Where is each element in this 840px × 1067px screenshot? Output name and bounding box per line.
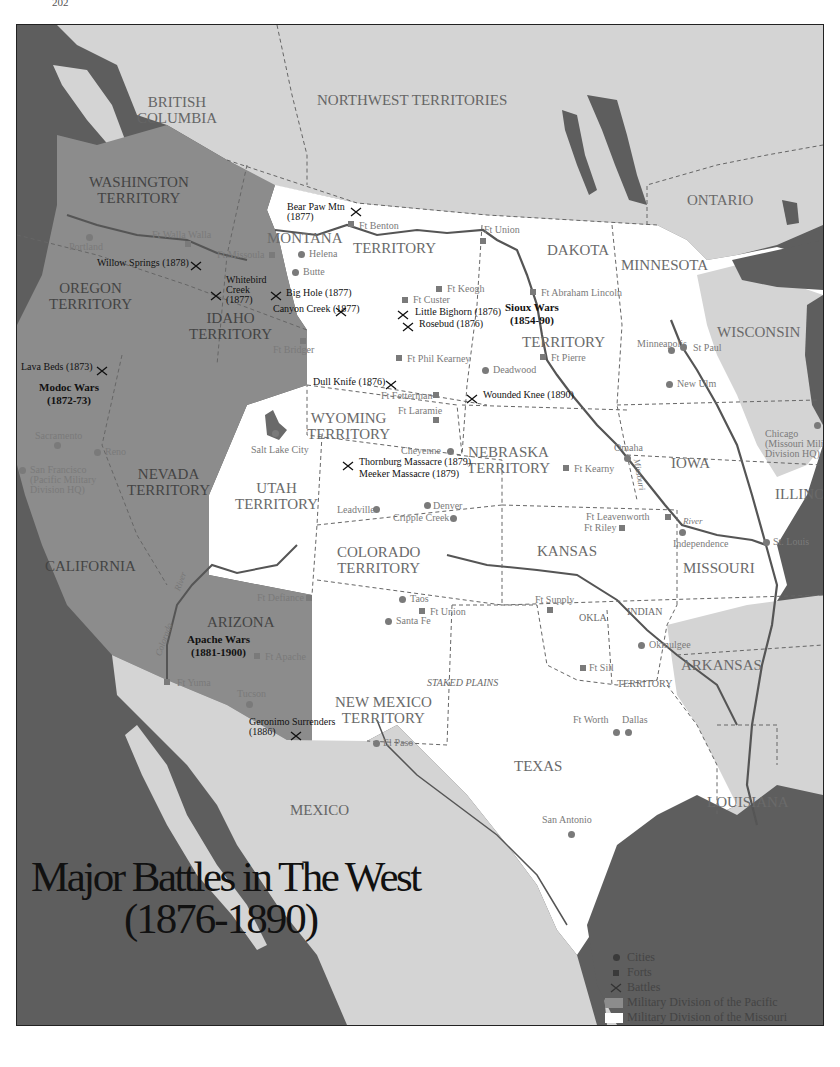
city-label: Omaha [614, 443, 643, 453]
fort-label: Ft Kearny [574, 464, 614, 474]
fort-label: Ft Union [484, 225, 520, 235]
region-label-oregon: OREGONTERRITORY [49, 281, 132, 313]
city-label: Taos [410, 594, 429, 604]
city-dot-icon [19, 467, 26, 474]
battle-label: Geronimo Surrenders(1886) [249, 717, 335, 737]
city-dot-icon [86, 234, 93, 241]
battle-label: Bear Paw Mtn(1877) [287, 202, 345, 222]
city-dot-icon [482, 367, 489, 374]
page-number: 202 [52, 0, 69, 8]
city-dot-icon [298, 251, 305, 258]
city-label: St Paul [693, 343, 722, 353]
city-dot-icon [385, 618, 392, 625]
region-label-new-mexico: NEW MEXICOTERRITORY [335, 695, 432, 727]
map-frame: BRITISHCOLUMBIANORTHWEST TERRITORIESONTA… [16, 24, 824, 1026]
battle-label: Wounded Knee (1890) [483, 390, 574, 400]
city-dot-icon [272, 430, 279, 437]
city-label: Tucson [237, 689, 266, 699]
battle-label: Canyon Creek (1877) [273, 304, 360, 314]
crossed-swords-icon [385, 376, 397, 394]
battle-label: Rosebud (1876) [419, 319, 483, 329]
city-label: Chicago(Missouri MilitaryDivision HQ) [765, 429, 824, 459]
city-label: Sacramento [35, 431, 82, 441]
battle-label: WhitebirdCreek(1877) [226, 275, 267, 305]
region-label-mexico: MEXICO [290, 803, 349, 819]
region-label-wyoming: WYOMINGTERRITORY [307, 411, 390, 443]
fort-label: Ft Defiance [257, 593, 304, 603]
battle-label: Willow Springs (1878) [97, 258, 189, 268]
fort-label: Ft Laramie [398, 406, 442, 416]
war-label: Apache Wars(1881-1900) [187, 633, 250, 658]
city-label: Leadville [337, 505, 375, 515]
city-label: Santa Fe [396, 616, 431, 626]
river-label: River [683, 517, 703, 526]
war-label: Modoc Wars(1872-73) [39, 381, 99, 406]
fort-label: Ft Bridger [273, 345, 314, 355]
city-dot-icon [94, 449, 101, 456]
fort-square-icon [540, 354, 546, 360]
fort-label: Ft Union [430, 607, 466, 617]
fort-square-icon [185, 241, 191, 247]
region-label-indian: INDIAN [627, 607, 663, 618]
city-label: Cripple Creek [393, 513, 449, 523]
region-label-illinois: ILLINOIS [775, 487, 824, 503]
city-label: San Antonio [542, 815, 592, 825]
legend-item-cities: Cities [605, 950, 787, 965]
fort-label: Ft Apache [265, 652, 306, 662]
fort-square-icon [530, 289, 536, 295]
region-label-montana-territory: TERRITORY [353, 241, 436, 257]
city-label: Portland [69, 242, 103, 252]
city-dot-icon [666, 381, 673, 388]
crossed-swords-icon [342, 457, 354, 475]
city-label: Okmulgee [649, 640, 691, 650]
fort-square-icon [402, 297, 408, 303]
city-dot-icon [625, 729, 632, 736]
region-label-arkansas: ARKANSAS [681, 658, 762, 674]
legend-item-pacific: Military Division of the Pacific [605, 995, 787, 1010]
fort-square-icon [480, 238, 486, 244]
city-dot-icon [679, 529, 686, 536]
map-title: Major Battles in The West [31, 855, 420, 898]
city-label: Dallas [622, 715, 648, 725]
crossed-swords-icon [466, 390, 478, 408]
city-dot-icon [680, 344, 687, 351]
region-label-arizona: ARIZONA [207, 615, 275, 631]
fort-label: Ft Phil Kearney [407, 354, 470, 364]
city-label: Denver [433, 501, 462, 511]
fort-label: Ft Supply [535, 595, 574, 605]
legend-label: Military Division of the Pacific [627, 995, 778, 1010]
fort-label: Ft Missoula [217, 250, 265, 260]
city-label: Salt Lake City [251, 445, 309, 455]
region-label-missouri: MISSOURI [683, 561, 755, 577]
region-label-montana: MONTANA [267, 231, 342, 247]
fort-square-icon [619, 525, 625, 531]
city-dot-icon [424, 502, 431, 509]
city-dot-icon [638, 642, 645, 649]
legend-label: Military Division of the Missouri [627, 1010, 787, 1025]
missouri-swatch-icon [605, 1013, 623, 1023]
fort-square-icon [665, 514, 671, 520]
region-label-nebraska: NEBRASKATERRITORY [467, 445, 550, 477]
region-label-utah: UTAHTERRITORY [235, 481, 318, 513]
fort-square-icon [254, 653, 260, 659]
city-label: Butte [303, 267, 325, 277]
fort-square-icon [348, 221, 354, 227]
fort-square-icon [419, 608, 425, 614]
battle-label: Dull Knife (1876) [313, 377, 385, 387]
region-label-british-columbia: BRITISHCOLUMBIA [137, 95, 217, 127]
battle-label: Meeker Massacre (1879) [359, 469, 459, 479]
city-label: El Paso [383, 738, 413, 748]
fort-square-icon [164, 679, 170, 685]
region-label-dakota: DAKOTA [547, 243, 609, 259]
crossed-swords-icon [605, 983, 627, 993]
battle-label: Lava Beds (1873) [21, 362, 93, 372]
legend-label: Cities [627, 950, 655, 965]
fort-square-icon [396, 355, 402, 361]
legend-item-battles: Battles [605, 980, 787, 995]
city-dot-icon [568, 831, 575, 838]
city-dot-icon [447, 448, 454, 455]
fort-label: Ft Walla Walla [152, 230, 211, 240]
fort-label: Ft Benton [359, 221, 399, 231]
fort-square-icon [436, 286, 442, 292]
city-label: St. Louis [773, 537, 809, 547]
